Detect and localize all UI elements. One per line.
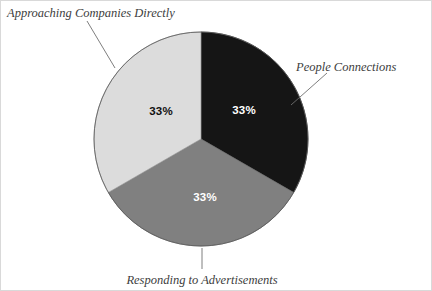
category-label-responding-to-advertisements: Responding to Advertisements <box>125 273 277 287</box>
pie-chart-canvas: 33% 33% 33% Approaching Companies Direct… <box>1 1 432 291</box>
pie-slices <box>94 32 308 246</box>
slice-value-approaching-companies-directly: 33% <box>149 105 173 117</box>
leader-line-approaching-companies-directly <box>87 21 115 68</box>
slice-value-people-connections: 33% <box>232 104 256 116</box>
category-label-approaching-companies-directly: Approaching Companies Directly <box>6 6 175 20</box>
category-label-people-connections: People Connections <box>295 60 396 74</box>
slice-value-responding-to-advertisements: 33% <box>193 191 217 203</box>
pie-chart-figure: 33% 33% 33% Approaching Companies Direct… <box>0 0 432 291</box>
leader-line-people-connections <box>291 73 327 105</box>
